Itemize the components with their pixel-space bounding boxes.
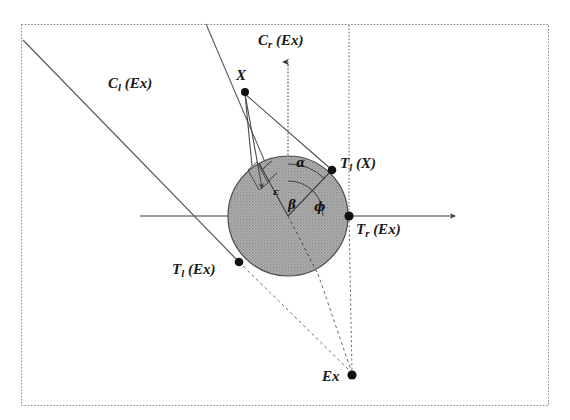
label-tl-x-arg: (X) [356,155,376,171]
vertical-guide-tr-lower [349,216,352,372]
diagram-canvas [0,0,570,420]
label-c-left-base: C [108,75,118,91]
tangent-point-tl-x [328,166,337,175]
tangent-point-tl-ex [235,258,244,267]
angle-label-phi: ϕ [314,201,325,213]
figure-page: Cl (Ex) Cr (Ex) X Tl (X) Tr (Ex) Tl (Ex)… [0,0,570,420]
label-tl-ex: Tl (Ex) [172,262,215,279]
label-tl-ex-arg: (Ex) [188,261,216,277]
label-c-right-base: C [258,32,268,48]
label-c-right-sub: r [268,38,272,50]
label-tr-ex-arg: (Ex) [373,221,401,237]
label-point-ex-base: Ex [322,368,340,384]
label-c-right-arg: (Ex) [276,32,304,48]
dashed-lower-to-ex [318,274,352,373]
label-tr-ex-sub: r [365,227,369,239]
angle-label-alpha: α [296,157,305,169]
cone-left-boundary [23,40,239,262]
tangent-point-tr-ex [344,211,353,220]
angle-label-beta: β [288,199,296,211]
label-tl-ex-base: T [172,261,181,277]
label-c-left: Cl (Ex) [108,76,152,93]
label-point-x-base: X [236,67,246,83]
cone-left-dashed-to-ex [239,262,352,373]
angle-label-epsilon: ε [273,187,279,197]
label-tl-x-base: T [340,155,349,171]
label-tl-x-sub: l [349,161,352,173]
label-tr-ex: Tr (Ex) [356,222,401,239]
point-x [241,88,249,96]
label-tr-ex-base: T [356,221,365,237]
label-c-left-arg: (Ex) [125,75,153,91]
label-tl-ex-sub: l [181,267,184,279]
label-c-left-sub: l [118,81,121,93]
label-c-right: Cr (Ex) [258,33,303,50]
label-point-x: X [236,68,246,83]
point-ex [347,370,356,379]
label-tl-x: Tl (X) [340,156,376,173]
label-point-ex: Ex [322,369,340,384]
